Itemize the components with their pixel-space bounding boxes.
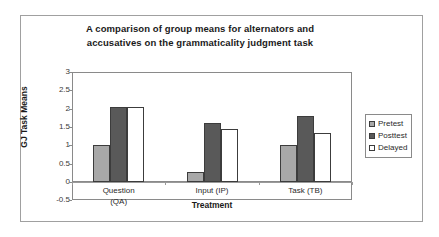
y-axis-tick-mark bbox=[69, 127, 72, 128]
y-axis-tick-label: 1.5 bbox=[44, 123, 70, 131]
x-axis-category-label: Question(QA) bbox=[74, 185, 164, 207]
bar-delayed-0 bbox=[127, 107, 144, 182]
x-axis-category-label: Task (TB) bbox=[260, 185, 350, 196]
chart-legend: PretestPosttestDelayed bbox=[365, 114, 412, 158]
chart-title: A comparison of group means for alternat… bbox=[40, 22, 360, 50]
y-axis-tick-label: 2.5 bbox=[44, 86, 70, 94]
legend-swatch-icon bbox=[369, 121, 375, 127]
bar-posttest-1 bbox=[204, 123, 221, 182]
legend-swatch-icon bbox=[369, 133, 375, 139]
y-axis-tick-mark bbox=[69, 164, 72, 165]
chart-title-line-1: A comparison of group means for alternat… bbox=[40, 22, 360, 36]
bar-posttest-0 bbox=[110, 107, 127, 182]
y-axis-tick-mark bbox=[69, 145, 72, 146]
legend-item-delayed[interactable]: Delayed bbox=[369, 142, 407, 154]
bars-layer bbox=[72, 72, 352, 182]
x-axis-category-label-line: Input (IP) bbox=[167, 185, 257, 196]
x-axis-category-label-line: Task (TB) bbox=[260, 185, 350, 196]
bar-delayed-2 bbox=[314, 133, 331, 182]
bar-delayed-1 bbox=[221, 129, 238, 182]
bar-pretest-0 bbox=[93, 145, 110, 182]
y-axis-tick-label: 0 bbox=[44, 178, 70, 186]
bar-posttest-2 bbox=[297, 116, 314, 182]
y-axis-tick-label: 1 bbox=[44, 141, 70, 149]
x-axis-category-label: Input (IP) bbox=[167, 185, 257, 196]
y-axis-tick-labels: 32.521.510.50-0.5 bbox=[40, 0, 70, 237]
x-axis-category-label-line: (QA) bbox=[74, 196, 164, 207]
zero-baseline bbox=[72, 182, 352, 183]
y-axis-tick-label: 2 bbox=[44, 105, 70, 113]
chart-figure: A comparison of group means for alternat… bbox=[0, 0, 439, 237]
y-axis-tick-label: 0.5 bbox=[44, 160, 70, 168]
bar-pretest-2 bbox=[280, 145, 297, 182]
y-axis-tick-label: -0.5 bbox=[44, 196, 70, 204]
y-axis-tick-mark bbox=[69, 200, 72, 201]
y-axis-tick-mark bbox=[69, 72, 72, 73]
y-axis-tick-label: 3 bbox=[44, 68, 70, 76]
x-axis-category-label-line: Question bbox=[74, 185, 164, 196]
x-axis-tick-mark bbox=[72, 182, 73, 185]
x-axis-tick-mark bbox=[165, 182, 166, 185]
bar-pretest-1 bbox=[187, 172, 204, 182]
y-axis-tick-mark bbox=[69, 109, 72, 110]
x-axis-tick-mark bbox=[352, 182, 353, 185]
legend-item-label: Delayed bbox=[378, 143, 407, 153]
legend-item-label: Posttest bbox=[378, 131, 407, 141]
y-axis-title: GJ Task Means bbox=[19, 72, 29, 162]
x-axis-tick-mark bbox=[259, 182, 260, 185]
legend-item-pretest[interactable]: Pretest bbox=[369, 118, 407, 130]
legend-swatch-icon bbox=[369, 145, 375, 151]
legend-item-posttest[interactable]: Posttest bbox=[369, 130, 407, 142]
y-axis-tick-mark bbox=[69, 90, 72, 91]
legend-item-label: Pretest bbox=[378, 119, 403, 129]
chart-title-line-2: accusatives on the grammaticality judgme… bbox=[40, 36, 360, 50]
